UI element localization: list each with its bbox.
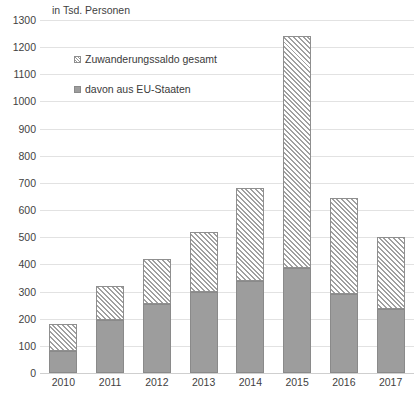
y-axis-tick-label: 400 (2, 259, 36, 270)
bar-group[interactable] (190, 232, 218, 373)
y-axis-tick-label: 500 (2, 232, 36, 243)
y-axis-tick-label: 0 (2, 368, 36, 379)
gridline (40, 47, 414, 48)
bar-segment-total (96, 286, 124, 319)
gridline (40, 129, 414, 130)
x-axis-tick-label: 2011 (87, 376, 133, 388)
bar-segment-total (236, 188, 264, 281)
gridline (40, 20, 414, 21)
gridline (40, 183, 414, 184)
legend-item-total[interactable]: Zuwanderungssaldo gesamt (74, 53, 217, 65)
gridline (40, 101, 414, 102)
bar-group[interactable] (236, 188, 264, 373)
x-axis-labels: 20102011201220132014201520162017 (40, 376, 414, 396)
immigration-balance-chart: in Tsd. Personen 01002003004005006007008… (0, 0, 420, 405)
legend-item-eu[interactable]: davon aus EU-Staaten (74, 83, 191, 95)
gridline (40, 237, 414, 238)
bar-segment-total (283, 36, 311, 267)
bar-segment-total (330, 198, 358, 294)
bar-segment-eu (283, 268, 311, 373)
x-axis-tick-label: 2014 (227, 376, 273, 388)
bar-group[interactable] (330, 198, 358, 373)
x-axis-tick-label: 2015 (274, 376, 320, 388)
y-axis-tick-label: 800 (2, 151, 36, 162)
bar-group[interactable] (283, 36, 311, 373)
y-axis-tick-label: 1000 (2, 96, 36, 107)
y-axis-tick-label: 300 (2, 286, 36, 297)
y-axis-tick-label: 700 (2, 178, 36, 189)
y-axis-tick-label: 1300 (2, 15, 36, 26)
gray-square-icon (74, 86, 81, 93)
bar-segment-eu (236, 281, 264, 373)
y-axis-labels: 0100200300400500600700800900100011001200… (0, 20, 36, 373)
x-axis-tick-label: 2012 (134, 376, 180, 388)
x-axis-tick-label: 2017 (368, 376, 414, 388)
y-axis-tick-label: 1200 (2, 42, 36, 53)
bar-segment-eu (143, 304, 171, 373)
bar-segment-eu (330, 294, 358, 373)
bar-segment-eu (96, 320, 124, 373)
x-axis-tick-label: 2010 (40, 376, 86, 388)
legend-item-eu-label: davon aus EU-Staaten (85, 83, 191, 95)
gridline (40, 264, 414, 265)
axis-unit-note: in Tsd. Personen (52, 4, 130, 16)
x-axis-tick-label: 2013 (181, 376, 227, 388)
bar-group[interactable] (143, 259, 171, 373)
bar-segment-total (190, 232, 218, 292)
bar-group[interactable] (49, 324, 77, 373)
y-axis-tick-label: 600 (2, 205, 36, 216)
bar-segment-eu (49, 351, 77, 373)
y-axis-tick-label: 100 (2, 341, 36, 352)
bar-group[interactable] (96, 286, 124, 373)
gridline (40, 373, 414, 374)
plot-area (40, 20, 414, 373)
hatched-square-icon (74, 56, 81, 63)
bar-segment-eu (190, 292, 218, 373)
bar-segment-total (143, 259, 171, 304)
bar-segment-eu (377, 309, 405, 373)
x-axis-tick-label: 2016 (321, 376, 367, 388)
y-axis-tick-label: 1100 (2, 69, 36, 80)
gridline (40, 74, 414, 75)
gridline (40, 210, 414, 211)
y-axis-tick-label: 200 (2, 313, 36, 324)
bar-group[interactable] (377, 237, 405, 373)
legend-item-total-label: Zuwanderungssaldo gesamt (85, 53, 217, 65)
y-axis-tick-label: 900 (2, 123, 36, 134)
gridline (40, 156, 414, 157)
bar-segment-total (377, 237, 405, 309)
bar-segment-total (49, 324, 77, 351)
